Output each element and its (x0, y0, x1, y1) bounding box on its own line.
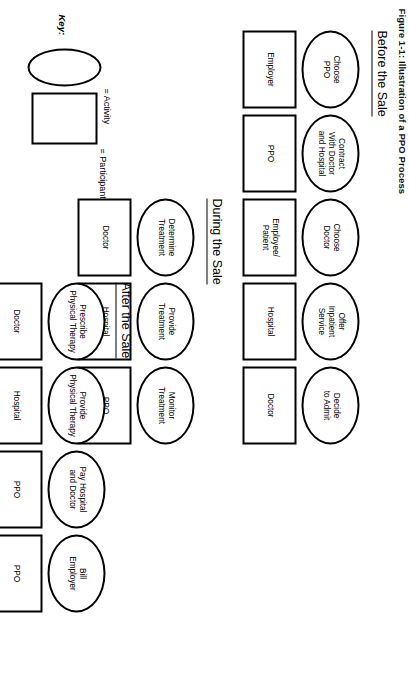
key-label: Key: (56, 14, 67, 35)
key-participant-shape: = Participant (31, 92, 97, 144)
participant-shape[interactable]: Employee/ Patient (242, 198, 296, 276)
section-before-the-sale: Before the Sale Choose PPO Employer Cont… (259, 0, 409, 470)
activity-label: Monitor Treatment (155, 381, 175, 428)
participant-label: Doctor (264, 390, 274, 420)
participant-label: PPO (10, 477, 20, 500)
section-title-before-the-sale: Before the Sale (371, 30, 387, 116)
participant-label: Hospital (264, 303, 274, 339)
section-title-after-the-sale: After the Sale (115, 282, 131, 358)
activity-shape[interactable]: Offer Inpatient Service (301, 282, 359, 360)
activity-shape[interactable]: Determine Treatment (136, 198, 194, 276)
key-participant-text: = Participant (97, 148, 107, 198)
node-choose-ppo: Choose PPO Employer (242, 30, 359, 108)
activity-label: Choose Doctor (320, 218, 340, 256)
activity-shape[interactable]: Provide Physical Therapy (47, 366, 105, 444)
activity-shape[interactable]: Monitor Treatment (136, 366, 194, 444)
participant-label: Hospital (10, 387, 20, 423)
node-offer-inpatient-service: Offer Inpatient Service Hospital (242, 282, 359, 360)
participant-shape[interactable]: PPO (0, 450, 42, 528)
activity-label: Prescribe Physical Therapy (66, 285, 86, 358)
activity-label: Determine Treatment (155, 213, 175, 261)
participant-shape[interactable]: PPO (0, 534, 42, 612)
activity-shape[interactable]: Pay Hospital and Doctor (47, 450, 105, 528)
activity-label: Pay Hospital and Doctor (66, 461, 86, 517)
activity-label: Decide to Admit (320, 385, 340, 425)
key-legend: Key: = Activity = Participant (9, 14, 109, 204)
activity-label: Provide Physical Therapy (66, 369, 86, 442)
node-pay-hospital-and-doctor: Pay Hospital and Doctor PPO (0, 450, 105, 528)
participant-shape[interactable]: Hospital (0, 366, 42, 444)
participant-label: Employer (264, 49, 274, 90)
activity-shape[interactable]: Prescribe Physical Therapy (47, 282, 105, 360)
node-contract-with-doctor-and-hospital: Contract With Doctor and Hospital PPO (242, 114, 359, 192)
figure-canvas: Figure 1-1: Illustration of a PPO Proces… (0, 0, 409, 681)
activity-label: Choose PPO (320, 50, 340, 88)
activity-shape[interactable]: Contract With Doctor and Hospital (301, 114, 359, 192)
activity-shape[interactable]: Provide Treatment (136, 282, 194, 360)
participant-shape[interactable]: Employer (242, 30, 296, 108)
section-title-during-the-sale: During the Sale (206, 198, 222, 284)
activity-shape[interactable]: Choose Doctor (301, 198, 359, 276)
activity-label: Offer Inpatient Service (315, 300, 345, 341)
node-provide-physical-therapy: Provide Physical Therapy Hospital (0, 366, 105, 444)
node-bill-employer: Bill Employer PPO (0, 534, 105, 612)
participant-label: PPO (264, 141, 274, 164)
participant-label: PPO (10, 561, 20, 584)
participant-shape[interactable]: Hospital (242, 282, 296, 360)
activity-label: Contract With Doctor and Hospital (315, 125, 345, 181)
participant-shape[interactable]: Doctor (0, 282, 42, 360)
node-choose-doctor: Choose Doctor Employee/ Patient (242, 198, 359, 276)
participant-shape[interactable]: PPO (242, 114, 296, 192)
activity-shape[interactable]: Choose PPO (301, 30, 359, 108)
participant-label: Doctor (10, 306, 20, 336)
node-prescribe-physical-therapy: Prescribe Physical Therapy Doctor (0, 282, 105, 360)
participant-label: Employee/ Patient (259, 215, 279, 260)
key-activity-shape: = Activity (27, 48, 101, 86)
activity-label: Bill Employer (66, 551, 86, 596)
key-activity-text: = Activity (101, 88, 111, 124)
node-decide-to-admit: Decide to Admit Doctor (242, 366, 359, 444)
activity-shape[interactable]: Bill Employer (47, 534, 105, 612)
activity-label: Provide Treatment (155, 297, 175, 344)
participant-shape[interactable]: Doctor (242, 366, 296, 444)
activity-shape[interactable]: Decide to Admit (301, 366, 359, 444)
